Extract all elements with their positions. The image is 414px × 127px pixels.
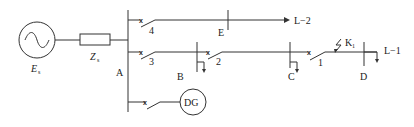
load-arrow-icon — [295, 69, 299, 73]
arrow-right-icon — [284, 17, 290, 23]
bus-a-label: A — [116, 67, 124, 78]
load-c — [290, 62, 297, 70]
breaker-1-label: 1 — [318, 57, 323, 68]
bus-b-label: B — [177, 71, 184, 82]
bus-c-label: C — [288, 71, 295, 82]
source-subscript: s — [38, 69, 41, 75]
load-arrow-icon — [202, 69, 206, 73]
bus-e-label: E — [218, 27, 224, 38]
ac-source — [19, 22, 55, 58]
breaker-2-mark: x — [206, 49, 210, 56]
breaker-4-mark: x — [139, 17, 143, 24]
line-l1-label: L−1 — [384, 45, 401, 56]
breaker-2-label: 2 — [216, 56, 221, 67]
breaker-3-label: 3 — [149, 56, 154, 67]
impedance-subscript: s — [97, 57, 100, 63]
load-d — [364, 52, 377, 60]
breaker-4-label: 4 — [149, 25, 154, 36]
sine-wave-icon — [25, 33, 49, 48]
impedance-box — [80, 34, 110, 45]
bus-d-label: D — [360, 71, 367, 82]
source-label: E — [30, 63, 37, 74]
dg-label: DG — [184, 97, 198, 108]
single-line-diagram: E s Z s A x 4 E L−2 x 3 B x 2 C x 1 K 1 — [0, 0, 414, 127]
impedance-label: Z — [90, 51, 96, 62]
fault-subscript: 1 — [352, 43, 355, 49]
dg-breaker-mark: x — [143, 99, 147, 106]
fault-lightning-icon — [334, 39, 341, 53]
breaker-3-mark: x — [139, 49, 143, 56]
breaker-1-mark: x — [307, 49, 311, 56]
line-l2-label: L−2 — [294, 15, 311, 26]
load-b — [197, 62, 204, 70]
dg-breaker-switch-icon[interactable] — [147, 102, 160, 109]
load-arrow-icon — [375, 59, 379, 63]
